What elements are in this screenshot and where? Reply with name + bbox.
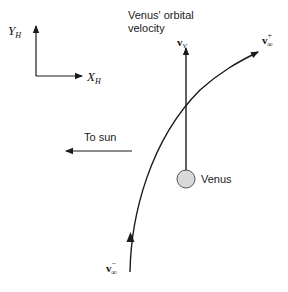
venus-flyby-diagram: YH XH Venus' orbital velocity vV Venus T… — [0, 0, 288, 292]
venus-label: Venus — [201, 173, 232, 185]
y-axis-label: YH — [8, 23, 22, 40]
x-axis-label: XH — [86, 69, 102, 86]
v-inf-in-label: v−∞ — [106, 259, 117, 277]
flyby-trajectory — [130, 52, 258, 272]
to-sun-label: To sun — [84, 131, 116, 143]
v-inf-out-label: v+∞ — [262, 31, 273, 49]
orbital-velocity-caption-line2: velocity — [128, 22, 165, 34]
heliocentric-axes: YH XH — [8, 23, 102, 86]
orbital-velocity-caption-line1: Venus' orbital — [128, 9, 194, 21]
venus-planet — [177, 170, 195, 188]
venus-velocity-label: vV — [177, 36, 188, 50]
